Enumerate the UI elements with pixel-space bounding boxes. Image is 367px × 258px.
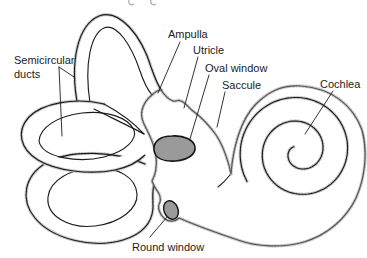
label-round-window: Round window <box>132 241 204 253</box>
inner-ear-diagram: Semicircular ducts Ampulla Utricle Oval … <box>0 0 367 258</box>
leader-utricle <box>184 57 198 108</box>
superior-semicircular-duct <box>75 15 162 107</box>
label-utricle: Utricle <box>193 44 224 56</box>
remnant-glyph-1 <box>129 0 134 5</box>
leader-semicircular-a <box>59 67 74 77</box>
oval-window-shape <box>154 136 195 161</box>
lateral-semicircular-duct <box>21 101 145 172</box>
label-semicircular-ducts-line1: Semicircular <box>14 54 75 66</box>
label-cochlea: Cochlea <box>320 78 361 90</box>
leader-round-window <box>150 217 167 237</box>
label-oval-window: Oval window <box>205 62 267 74</box>
leader-saccule <box>217 92 225 127</box>
label-ampulla: Ampulla <box>168 28 209 40</box>
remnant-glyph-2 <box>151 0 156 5</box>
cropped-text-remnant <box>129 0 156 5</box>
leader-ampulla <box>158 42 180 93</box>
label-semicircular-ducts-line2: ducts <box>14 68 41 80</box>
label-saccule: Saccule <box>222 79 261 91</box>
posterior-duct-inner-line <box>48 168 137 226</box>
labyrinth-figure: Semicircular ducts Ampulla Utricle Oval … <box>0 0 367 258</box>
